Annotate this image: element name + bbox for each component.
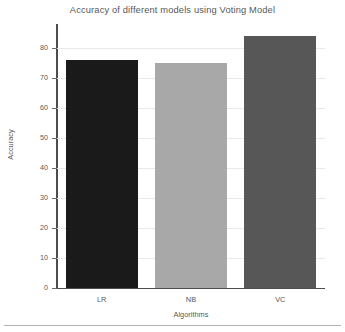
y-tick-mark [52,228,57,229]
x-tick-label-lr: LR [72,295,132,304]
footer-divider [4,325,341,326]
y-tick-mark [52,48,57,49]
y-tick-mark [52,258,57,259]
y-tick-mark [52,138,57,139]
y-tick-label: 80 [22,44,48,51]
y-tick-mark [52,108,57,109]
page-title: Accuracy of different models using Votin… [0,5,345,15]
y-tick-label: 50 [22,134,48,141]
bar-chart-figure: Accuracy of different models using Votin… [0,0,345,332]
y-tick-label: 20 [22,224,48,231]
y-tick-label: 0 [22,284,48,291]
y-tick-mark [52,168,57,169]
y-tick-mark [52,198,57,199]
y-tick-label: 60 [22,104,48,111]
bar-lr[interactable] [66,60,138,288]
y-tick-mark [52,288,57,289]
y-axis-title: Accuracy [6,115,15,175]
y-tick-label: 10 [22,254,48,261]
y-tick-label: 70 [22,74,48,81]
x-axis-spine [57,288,325,289]
x-tick-label-nb: NB [161,295,221,304]
plot-area [57,24,325,288]
y-tick-label: 30 [22,194,48,201]
bar-vc[interactable] [244,36,316,288]
y-tick-mark [52,78,57,79]
x-axis-title: Algorithms [57,310,325,319]
bar-nb[interactable] [155,63,227,288]
x-tick-label-vc: VC [250,295,310,304]
y-tick-label: 40 [22,164,48,171]
